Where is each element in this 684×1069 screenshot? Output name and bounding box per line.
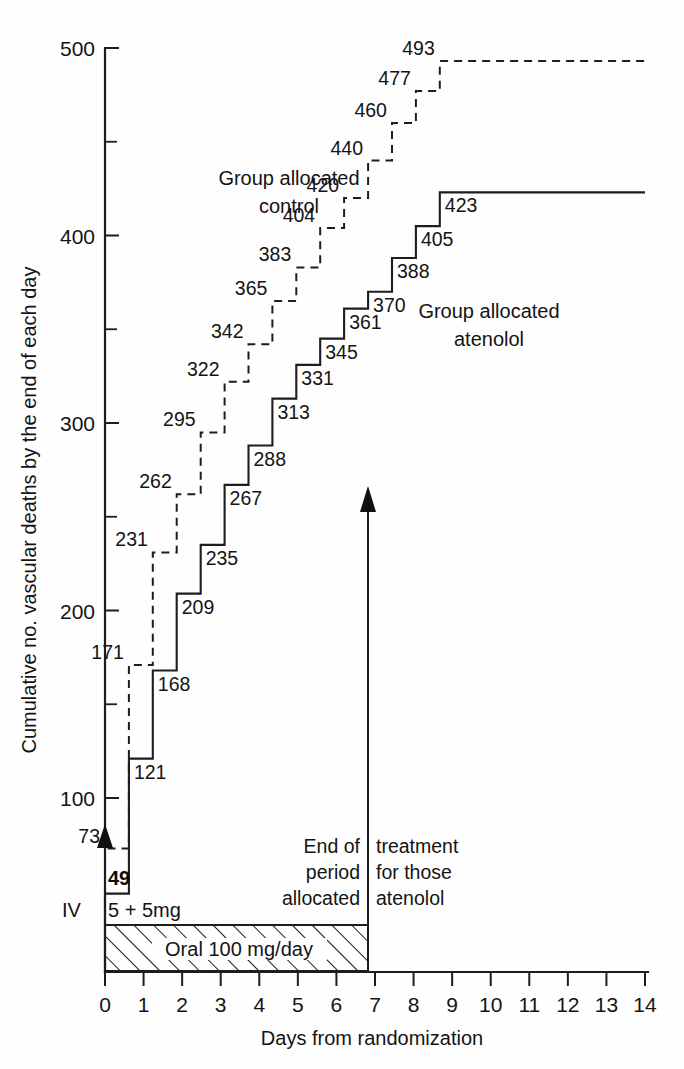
x-tick-label: 6 xyxy=(331,993,343,1016)
point-label-control-171: 171 xyxy=(91,641,124,663)
point-label-atenolol-121: 121 xyxy=(134,761,167,783)
point-label-atenolol-288: 288 xyxy=(253,448,286,470)
cumulative-deaths-chart: 100200300400500 01234567891011121314 Cum… xyxy=(0,0,684,1069)
point-label-atenolol-168: 168 xyxy=(158,673,191,695)
iv-dose-label: 5 + 5mg xyxy=(108,899,181,921)
point-label-atenolol-313: 313 xyxy=(277,401,310,423)
x-tick-label: 8 xyxy=(408,993,420,1016)
point-label-control-342: 342 xyxy=(211,320,244,342)
point-label-control-460: 460 xyxy=(354,99,387,121)
arrow-head-icon xyxy=(360,486,376,512)
point-label-control-493: 493 xyxy=(402,37,435,59)
point-label-control-383: 383 xyxy=(259,243,292,265)
end-of-treatment-annotation: End of treatment period for those alloca… xyxy=(282,835,459,909)
x-tick-label: 9 xyxy=(446,993,458,1016)
eot-line2-right: for those xyxy=(376,861,452,883)
oral-dose-bar: Oral 100 mg/day xyxy=(105,925,368,971)
point-label-control-440: 440 xyxy=(331,137,364,159)
point-label-control-365: 365 xyxy=(235,277,268,299)
point-label-control-73: 73 xyxy=(78,825,100,847)
group-control-label-line1: Group allocated xyxy=(218,167,359,189)
point-label-control-231: 231 xyxy=(115,528,148,550)
x-tick-label: 13 xyxy=(595,993,618,1016)
point-label-atenolol-405: 405 xyxy=(421,228,454,250)
y-tick-label: 400 xyxy=(60,225,95,248)
x-axis-title: Days from randomization xyxy=(261,1027,483,1049)
point-label-atenolol-370: 370 xyxy=(373,294,406,316)
x-tick-label: 1 xyxy=(138,993,150,1016)
point-label-control-262: 262 xyxy=(139,470,172,492)
point-label-atenolol-267: 267 xyxy=(230,487,263,509)
y-tick-label: 100 xyxy=(60,787,95,810)
y-tick-group: 100200300400500 xyxy=(60,37,119,810)
point-label-atenolol-209: 209 xyxy=(182,596,215,618)
eot-line1-left: End of xyxy=(304,835,361,857)
eot-line2-left: period xyxy=(306,861,360,883)
point-label-atenolol-345: 345 xyxy=(325,341,358,363)
x-tick-label: 5 xyxy=(292,993,304,1016)
series-point-labels: 1211682092352672883133313453613703884054… xyxy=(78,37,477,847)
point-label-atenolol-423: 423 xyxy=(445,194,478,216)
y-tick-label: 500 xyxy=(60,37,95,60)
end-of-treatment-arrow xyxy=(360,486,376,960)
eot-line3-right: atenolol xyxy=(376,887,444,909)
oral-dose-bar-label: Oral 100 mg/day xyxy=(165,938,313,960)
point-label-atenolol-235: 235 xyxy=(206,547,239,569)
y-tick-label: 300 xyxy=(60,412,95,435)
x-tick-label: 4 xyxy=(253,993,265,1016)
group-atenolol-annotation: Group allocated atenolol xyxy=(418,300,559,350)
x-tick-label: 11 xyxy=(518,993,540,1016)
eot-line3-left: allocated xyxy=(282,887,360,909)
x-tick-group: 01234567891011121314 xyxy=(99,972,657,1016)
x-tick-label: 14 xyxy=(633,993,657,1016)
group-control-label-line2: control xyxy=(259,195,319,217)
x-tick-label: 2 xyxy=(176,993,188,1016)
baseline-atenolol-value: 49 xyxy=(108,867,130,889)
series-group xyxy=(105,61,645,972)
point-label-control-322: 322 xyxy=(187,358,220,380)
point-label-atenolol-331: 331 xyxy=(301,367,334,389)
x-tick-label: 10 xyxy=(479,993,502,1016)
point-label-control-477: 477 xyxy=(378,67,411,89)
group-atenolol-label-line1: Group allocated xyxy=(418,300,559,322)
y-tick-label: 200 xyxy=(60,600,95,623)
series-line-control xyxy=(105,61,645,972)
x-tick-label: 3 xyxy=(215,993,227,1016)
eot-line1-right: treatment xyxy=(376,835,459,857)
group-atenolol-label-line2: atenolol xyxy=(454,328,524,350)
iv-label: IV xyxy=(62,899,82,921)
x-tick-label: 7 xyxy=(369,993,381,1016)
y-axis-title: Cumulative no. vascular deaths by the en… xyxy=(18,267,40,754)
x-tick-label: 12 xyxy=(556,993,579,1016)
figure-root: 100200300400500 01234567891011121314 Cum… xyxy=(0,0,684,1069)
point-label-control-295: 295 xyxy=(163,408,196,430)
point-label-atenolol-388: 388 xyxy=(397,260,430,282)
x-tick-label: 0 xyxy=(99,993,111,1016)
